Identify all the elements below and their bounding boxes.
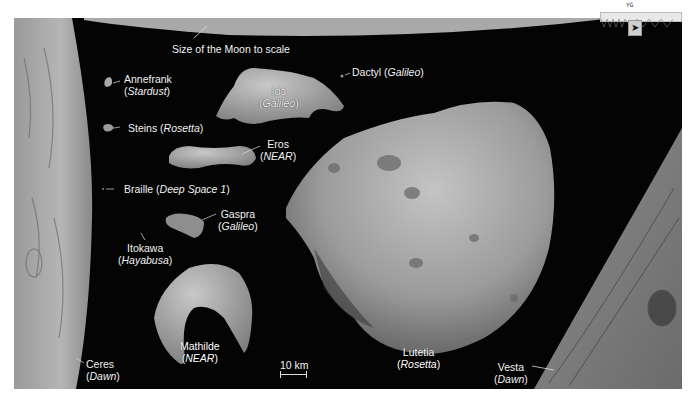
annefrank-body	[104, 77, 112, 87]
label-vesta: Vesta(Dawn)	[494, 361, 528, 385]
gaspra-body	[166, 214, 204, 239]
scale-bar-line	[280, 374, 307, 375]
widget-label: YG	[626, 1, 633, 8]
label-braille: Braille (Deep Space 1)	[124, 183, 230, 195]
label-lutetia: Lutetia(Rosetta)	[397, 346, 440, 370]
moon-limb	[84, 18, 614, 36]
label-ceres: Ceres(Dawn)	[86, 358, 120, 382]
label-annefrank: Annefrank(Stardust)	[124, 73, 172, 97]
label-dactyl: Dactyl (Galileo)	[352, 66, 424, 78]
vesta-body	[534, 128, 682, 389]
eros-body	[169, 146, 256, 168]
ceres-body	[14, 18, 92, 389]
asteroid-comparison-figure: Size of the Moon to scale Annefrank(Star…	[14, 18, 682, 389]
label-gaspra: Gaspra(Galileo)	[218, 208, 258, 232]
label-mathilde: Mathilde(NEAR)	[180, 340, 220, 364]
label-steins: Steins (Rosetta)	[128, 122, 203, 134]
label-eros: Eros(NEAR)	[260, 138, 296, 162]
scale-bar: 10 km	[280, 359, 309, 375]
label-ida: Ida(Galileo)	[259, 85, 299, 109]
overlay-widget[interactable]: YG ➤	[600, 6, 680, 36]
label-itokawa: Itokawa(Hayabusa)	[118, 242, 172, 266]
moon-caption: Size of the Moon to scale	[172, 43, 290, 55]
lutetia-body	[286, 102, 554, 354]
scale-bar-label: 10 km	[280, 359, 309, 371]
braille-body	[102, 188, 104, 190]
satellite-icon[interactable]: ➤	[628, 20, 642, 36]
steins-body	[103, 124, 114, 132]
scene-graphics	[14, 18, 682, 389]
dactyl-body	[341, 75, 344, 78]
